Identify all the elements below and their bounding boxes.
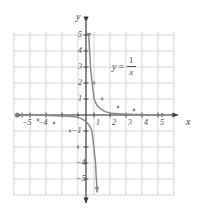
ytick-label-neg4: −4 [76, 159, 85, 167]
equation-annotation: y = 1 x [112, 56, 136, 77]
plot-canvas [0, 0, 200, 211]
y-axis-label: y [76, 12, 80, 22]
ytick-label-5: 5 [78, 31, 82, 39]
ytick-label-neg5: −5 [76, 175, 85, 183]
xtick-label-neg5: −5 [22, 119, 31, 127]
ytick-label-2: 2 [78, 79, 82, 87]
function-graph-figure: −5 −4 1 2 3 4 5 5 4 3 2 1 −1 −4 −5 y x y… [0, 0, 200, 211]
equation-operator: = [118, 62, 124, 72]
xtick-label-5: 5 [160, 119, 164, 127]
fraction-denominator: x [127, 67, 135, 77]
fraction-numerator: 1 [127, 56, 136, 66]
ytick-label-1: 1 [78, 95, 82, 103]
equation-lhs: y [112, 62, 116, 72]
xtick-label-1: 1 [96, 119, 100, 127]
xtick-label-2: 2 [112, 119, 116, 127]
ytick-label-3: 3 [78, 63, 82, 71]
ytick-label-4: 4 [78, 47, 82, 55]
xtick-label-4: 4 [144, 119, 148, 127]
xtick-label-neg4: −4 [38, 119, 47, 127]
equation-fraction: 1 x [127, 56, 136, 77]
x-axis-label: x [186, 117, 190, 127]
xtick-label-3: 3 [128, 119, 132, 127]
ytick-label-neg1: −1 [72, 127, 81, 135]
